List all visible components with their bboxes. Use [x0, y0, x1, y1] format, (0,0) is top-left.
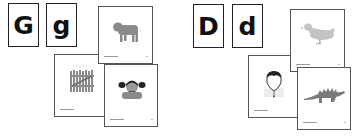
- page-mark: [151, 119, 153, 120]
- caption-line: [104, 56, 118, 57]
- page-mark: [338, 64, 340, 65]
- caption-line: [60, 109, 74, 110]
- fence-icon: [70, 70, 94, 92]
- picture-card-dinosaur[interactable]: [297, 67, 351, 130]
- picture-card-duck[interactable]: [290, 9, 345, 72]
- picture-card-goat[interactable]: [98, 6, 153, 64]
- picture-card-girl[interactable]: [104, 64, 158, 127]
- lowercase-letter: d: [239, 14, 257, 39]
- lowercase-letter-card[interactable]: d: [232, 4, 263, 48]
- vampire-icon: [262, 71, 286, 99]
- lowercase-letter-card[interactable]: g: [46, 3, 77, 47]
- sheep-icon: [112, 21, 140, 43]
- uppercase-letter: G: [13, 13, 34, 38]
- caption-line: [110, 119, 124, 120]
- page-mark: [344, 122, 346, 123]
- uppercase-letter-card[interactable]: G: [8, 3, 39, 47]
- caption-line: [303, 122, 317, 123]
- lowercase-letter: g: [53, 13, 71, 38]
- dinosaur-icon: [304, 85, 346, 105]
- girl-icon: [117, 78, 147, 100]
- caption-line: [296, 64, 310, 65]
- uppercase-letter-card[interactable]: D: [193, 4, 224, 48]
- page-mark: [146, 56, 148, 57]
- caption-line: [254, 110, 268, 111]
- uppercase-letter: D: [198, 14, 219, 39]
- duck-icon: [300, 22, 336, 46]
